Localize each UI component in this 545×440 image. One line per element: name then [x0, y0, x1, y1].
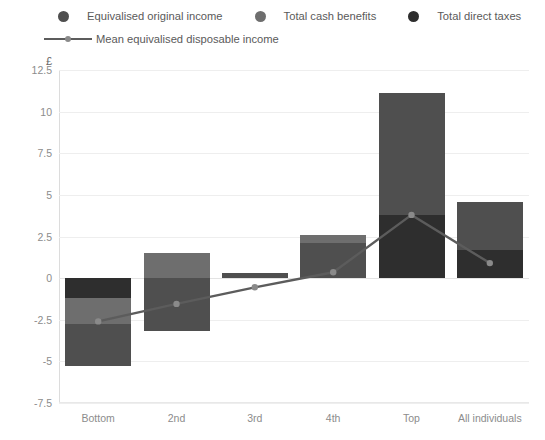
y-axis-tick-label: 5 [6, 189, 52, 201]
line-series-point[interactable] [173, 301, 179, 307]
line-series-point[interactable] [95, 318, 101, 324]
y-axis-tick-label: 12.5 [6, 64, 52, 76]
y-axis-tick-label: 0 [6, 272, 52, 284]
legend-row-series: Equivalised original income Total cash b… [58, 10, 531, 22]
legend-dot-icon [255, 11, 266, 22]
y-axis-tick-label: -2.5 [6, 314, 52, 326]
x-axis-tick-label: Bottom [82, 412, 115, 424]
plot-area [59, 70, 529, 403]
legend-row-line: Mean equivalised disposable income [44, 33, 289, 45]
legend-item-equivalised-original-income[interactable]: Equivalised original income [58, 10, 223, 22]
legend-dot-icon [408, 11, 419, 22]
x-axis-tick-label: All individuals [458, 412, 522, 424]
legend-item-total-cash-benefits[interactable]: Total cash benefits [255, 10, 377, 22]
gridline [59, 403, 529, 404]
legend-item-total-direct-taxes[interactable]: Total direct taxes [408, 10, 521, 22]
y-axis-tick-label: 7.5 [6, 147, 52, 159]
x-axis-line [59, 402, 529, 403]
x-axis-tick-label: 2nd [168, 412, 186, 424]
line-series-point[interactable] [252, 284, 258, 290]
legend-label-total-cash-benefits: Total cash benefits [284, 10, 377, 22]
x-axis-tick-label: 3rd [247, 412, 262, 424]
y-axis-tick-label: -7.5 [6, 397, 52, 409]
line-series-path [98, 215, 490, 322]
y-axis-tick-label: -5 [6, 355, 52, 367]
legend-dot-icon [58, 11, 69, 22]
x-axis-labels: Bottom2nd3rd4thTopAll individuals [59, 408, 529, 432]
legend-item-mean-equivalised-disposable-income[interactable]: Mean equivalised disposable income [44, 33, 279, 45]
y-axis-ticks: 12.5107.552.50-2.5-5-7.5 [0, 70, 52, 403]
chart-container: Equivalised original income Total cash b… [0, 0, 545, 440]
y-axis-tick-label: 2.5 [6, 231, 52, 243]
y-axis-tick-label: 10 [6, 106, 52, 118]
legend-label-mean-equivalised-disposable-income: Mean equivalised disposable income [96, 33, 279, 45]
x-axis-tick-label: 4th [326, 412, 341, 424]
legend-line-icon [44, 34, 92, 45]
line-series-point[interactable] [487, 260, 493, 266]
line-series-point[interactable] [330, 269, 336, 275]
line-series-layer [59, 70, 529, 403]
legend-label-total-direct-taxes: Total direct taxes [437, 10, 521, 22]
line-series-point[interactable] [408, 212, 414, 218]
x-axis-tick-label: Top [403, 412, 420, 424]
legend-label-equivalised-original-income: Equivalised original income [87, 10, 223, 22]
